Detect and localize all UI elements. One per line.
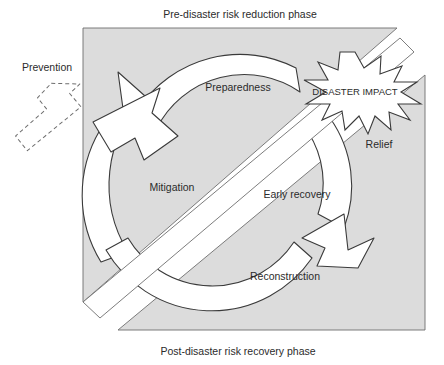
pre-disaster-phase-label: Pre-disaster risk reduction phase xyxy=(163,8,317,20)
cycle-label-preparedness: Preparedness xyxy=(205,81,270,93)
disaster-management-cycle-figure: DISASTER IMPACT Prevention Pre-disaster … xyxy=(0,0,444,365)
diagram-canvas: DISASTER IMPACT Prevention Pre-disaster … xyxy=(0,0,444,365)
cycle-label-reconstruction: Reconstruction xyxy=(250,270,320,282)
prevention-label: Prevention xyxy=(22,61,72,73)
prevention-arrow-outline xyxy=(12,69,90,164)
disaster-impact-label: DISASTER IMPACT xyxy=(312,86,398,97)
cycle-label-relief: Relief xyxy=(366,138,393,150)
cycle-label-mitigation: Mitigation xyxy=(150,181,195,193)
cycle-label-early-recovery: Early recovery xyxy=(263,188,331,200)
post-disaster-phase-label: Post-disaster risk recovery phase xyxy=(160,345,315,357)
prevention-dashed-arrow: Prevention xyxy=(12,61,90,164)
